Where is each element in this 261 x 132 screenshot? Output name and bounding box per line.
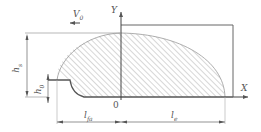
origin-label: 0 — [113, 101, 119, 110]
lfa-label: lfa — [84, 111, 93, 122]
le-label: le — [171, 111, 177, 122]
velocity-label: V0 — [73, 10, 83, 21]
hatched-region — [57, 33, 225, 97]
hs-label: hs — [12, 64, 23, 73]
y-axis-label: Y — [111, 6, 117, 15]
cavity-diagram — [0, 0, 261, 132]
h0-label: h0 — [34, 85, 45, 95]
x-axis-label: X — [241, 84, 247, 93]
